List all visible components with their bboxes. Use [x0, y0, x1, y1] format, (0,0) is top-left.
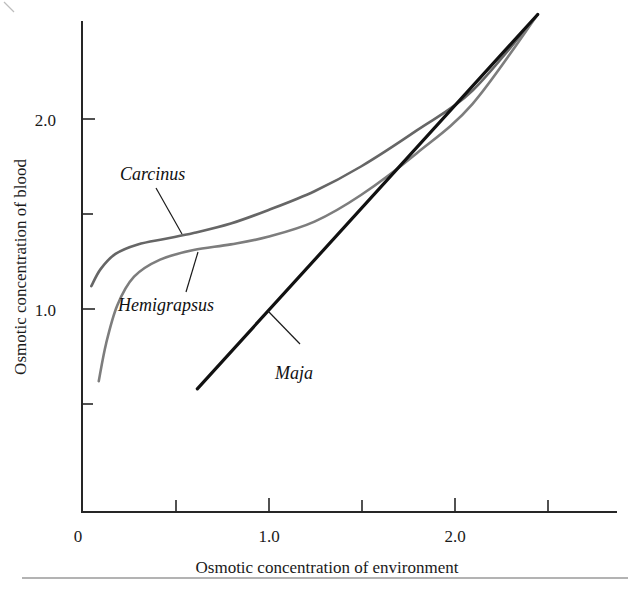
x-axis-label: Osmotic concentration of environment: [196, 558, 459, 577]
leader-line-hemigrapsus: [186, 252, 198, 292]
series-label-carcinus: Carcinus: [120, 164, 185, 184]
annotation-leaders: [156, 188, 300, 344]
series-label-maja: Maja: [274, 363, 313, 383]
series-line-maja: [197, 15, 537, 389]
y-axis-label: Osmotic concentration of blood: [11, 159, 30, 375]
y-tick-label-2.0: 2.0: [35, 111, 56, 130]
series-label-hemigrapsus: Hemigrapsus: [117, 295, 214, 315]
x-tick-label-2.0: 2.0: [444, 527, 465, 546]
leader-line-carcinus: [156, 188, 182, 234]
y-axis-ticks: [82, 119, 95, 404]
osmoregulation-chart: 2.0 1.0 0 1.0 2.0 Osmotic concentration …: [0, 0, 628, 591]
x-tick-label-1.0: 1.0: [258, 527, 279, 546]
figure-container: 2.0 1.0 0 1.0 2.0 Osmotic concentration …: [0, 0, 628, 591]
leader-line-maja: [268, 311, 300, 344]
x-tick-label-0: 0: [74, 527, 83, 546]
series-line-carcinus: [91, 15, 537, 287]
y-tick-label-1.0: 1.0: [35, 301, 56, 320]
axes: [82, 22, 616, 512]
series-group: [91, 15, 537, 389]
series-line-hemigrapsus: [99, 15, 538, 382]
x-axis-ticks: [176, 498, 548, 512]
corner-mark-icon: [4, 2, 14, 12]
